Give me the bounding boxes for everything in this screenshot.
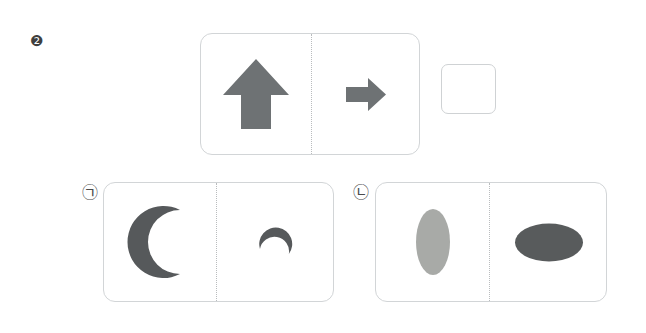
option-label-nieun: ㉡	[353, 185, 369, 201]
crescent-moon-small-icon	[257, 228, 293, 255]
up-arrow-icon	[223, 59, 289, 129]
worksheet-canvas: ❷ ㉠	[0, 0, 646, 333]
option-nieun-left-cell	[376, 183, 489, 301]
right-arrow-icon	[346, 78, 386, 111]
question-number-badge: ❷	[30, 34, 43, 49]
empty-answer-box[interactable]	[441, 64, 496, 114]
option-giyeok-left-cell	[104, 183, 216, 301]
prompt-left-cell	[201, 34, 311, 154]
option-nieun-right-cell	[489, 183, 608, 301]
option-card-giyeok[interactable]	[103, 182, 334, 302]
option-giyeok-right-cell	[216, 183, 335, 301]
vertical-ellipse-icon	[415, 208, 451, 276]
horizontal-ellipse-icon	[514, 223, 584, 262]
prompt-right-cell	[311, 34, 421, 154]
crescent-moon-icon	[136, 206, 184, 278]
option-label-giyeok: ㉠	[82, 185, 98, 201]
prompt-card	[200, 33, 420, 155]
option-card-nieun[interactable]	[375, 182, 607, 302]
